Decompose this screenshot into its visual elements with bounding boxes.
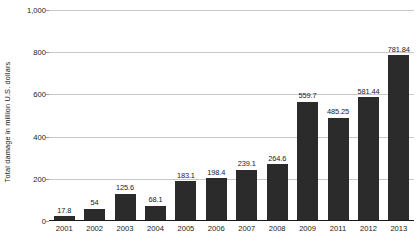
bar-value-label: 581.44 <box>357 87 379 96</box>
bar-value-label: 264.6 <box>268 154 286 163</box>
x-axis-tick-label: 2004 <box>140 224 170 238</box>
bar-group: 581.44 <box>353 10 383 220</box>
x-axis-tick-label: 2012 <box>353 224 383 238</box>
bar[interactable] <box>145 206 166 220</box>
bar-group: 125.6 <box>110 10 140 220</box>
x-axis-tick-label: 2013 <box>384 224 414 238</box>
bar-value-label: 68.1 <box>148 195 162 204</box>
bar[interactable] <box>328 118 349 220</box>
bar-value-label: 781.84 <box>388 45 410 54</box>
bar-chart: Total damage in million U.S. dollars 020… <box>0 0 417 244</box>
bar-group: 239.1 <box>232 10 262 220</box>
y-axis-tick-mark <box>46 221 49 222</box>
bar-value-label: 198.4 <box>207 168 225 177</box>
bar[interactable] <box>297 102 318 220</box>
bar-value-label: 17.8 <box>57 206 71 215</box>
bar-group: 559.7 <box>292 10 322 220</box>
bar-value-label: 54 <box>91 198 99 207</box>
bar-group: 68.1 <box>140 10 170 220</box>
bar[interactable] <box>267 164 288 220</box>
y-axis-tick-label: 400 <box>33 132 46 141</box>
x-axis-tick-label: 2008 <box>262 224 292 238</box>
bar-group: 54 <box>79 10 109 220</box>
bar-group: 781.84 <box>384 10 414 220</box>
bars-group: 17.854125.668.1183.1198.4239.1264.6559.7… <box>49 10 414 220</box>
bar-value-label: 125.6 <box>116 183 134 192</box>
x-axis-tick-label: 2001 <box>49 224 79 238</box>
x-axis-tick-label: 2011 <box>323 224 353 238</box>
y-axis-tick-labels: 02004006008001,000 <box>14 0 46 221</box>
x-axis-tick-label: 2009 <box>292 224 322 238</box>
x-axis-tick-label: 2007 <box>232 224 262 238</box>
x-axis-tick-label: 2005 <box>171 224 201 238</box>
x-axis-line <box>49 220 414 221</box>
y-axis-tick-label: 800 <box>33 48 46 57</box>
y-axis-tick-label: 1,000 <box>27 6 46 15</box>
bar-group: 183.1 <box>171 10 201 220</box>
bar-value-label: 183.1 <box>177 171 195 180</box>
bar[interactable] <box>236 170 257 220</box>
bar-group: 198.4 <box>201 10 231 220</box>
y-axis-tick-label: 200 <box>33 174 46 183</box>
bar-group: 17.8 <box>49 10 79 220</box>
bar-group: 264.6 <box>262 10 292 220</box>
y-axis-tick-label: 600 <box>33 90 46 99</box>
bar[interactable] <box>206 178 227 220</box>
x-axis-tick-labels: 2001200220032004200520062007200820092011… <box>49 224 414 238</box>
x-axis-tick-label: 2003 <box>110 224 140 238</box>
plot-area: 17.854125.668.1183.1198.4239.1264.6559.7… <box>49 10 414 221</box>
bar-value-label: 559.7 <box>299 91 317 100</box>
bar[interactable] <box>358 97 379 220</box>
x-axis-tick-label: 2002 <box>79 224 109 238</box>
bar[interactable] <box>84 209 105 220</box>
x-axis-tick-label: 2006 <box>201 224 231 238</box>
bar[interactable] <box>388 55 409 220</box>
bar-value-label: 239.1 <box>238 159 256 168</box>
y-axis-title: Total damage in million U.S. dollars <box>0 0 14 244</box>
bar[interactable] <box>175 181 196 220</box>
bar-group: 485.25 <box>323 10 353 220</box>
bar[interactable] <box>115 194 136 221</box>
bar-value-label: 485.25 <box>327 107 349 116</box>
